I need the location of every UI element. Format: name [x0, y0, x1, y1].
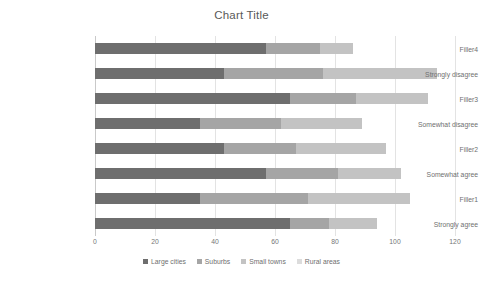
legend-item[interactable]: Large cities — [143, 258, 186, 265]
x-axis-tick-labels: 020406080100120 — [0, 238, 483, 252]
legend-swatch-icon — [197, 259, 202, 264]
bar-segment[interactable] — [296, 143, 386, 154]
plot-area — [95, 36, 455, 236]
bar-segment[interactable] — [95, 193, 200, 204]
bar-row[interactable] — [95, 111, 455, 136]
y-axis-label: Strongly agree — [434, 220, 478, 227]
gridline — [455, 36, 456, 236]
bar-row[interactable] — [95, 86, 455, 111]
bar-segment[interactable] — [308, 193, 410, 204]
bar-segment[interactable] — [95, 93, 290, 104]
bar-segment[interactable] — [323, 68, 437, 79]
legend-label: Small towns — [249, 258, 286, 265]
legend-label: Suburbs — [205, 258, 230, 265]
legend-swatch-icon — [297, 259, 302, 264]
bar-row[interactable] — [95, 36, 455, 61]
bar-segment[interactable] — [290, 93, 356, 104]
bar-segment[interactable] — [95, 168, 266, 179]
stacked-bar[interactable] — [95, 43, 455, 54]
chart-container: Chart Title 020406080100120 Large cities… — [0, 0, 483, 281]
bar-row[interactable] — [95, 211, 455, 236]
stacked-bar[interactable] — [95, 118, 455, 129]
y-axis-label: Strongly disagree — [425, 70, 478, 77]
bar-segment[interactable] — [290, 218, 329, 229]
legend-item[interactable]: Small towns — [241, 258, 286, 265]
legend-item[interactable]: Suburbs — [197, 258, 230, 265]
x-axis-tick-label: 60 — [271, 238, 279, 245]
bar-row[interactable] — [95, 136, 455, 161]
bar-segment[interactable] — [338, 168, 401, 179]
bar-segment[interactable] — [266, 168, 338, 179]
bar-segment[interactable] — [329, 218, 377, 229]
bar-segment[interactable] — [266, 43, 320, 54]
bar-segment[interactable] — [95, 68, 224, 79]
legend-swatch-icon — [143, 259, 148, 264]
x-axis-tick-label: 20 — [151, 238, 159, 245]
bar-segment[interactable] — [224, 68, 323, 79]
legend-swatch-icon — [241, 259, 246, 264]
stacked-bar[interactable] — [95, 193, 455, 204]
stacked-bar[interactable] — [95, 68, 455, 79]
x-axis-tick-label: 0 — [93, 238, 97, 245]
bar-row[interactable] — [95, 61, 455, 86]
legend-label: Large cities — [151, 258, 186, 265]
bar-segment[interactable] — [95, 118, 200, 129]
bar-segment[interactable] — [95, 143, 224, 154]
y-axis-label: Filler3 — [459, 95, 478, 102]
y-axis-label: Filler4 — [459, 45, 478, 52]
bar-segment[interactable] — [356, 93, 428, 104]
y-axis-label: Filler2 — [459, 145, 478, 152]
y-axis-label: Filler1 — [459, 195, 478, 202]
stacked-bar[interactable] — [95, 168, 455, 179]
x-axis-tick-label: 80 — [331, 238, 339, 245]
bar-segment[interactable] — [95, 218, 290, 229]
chart-legend: Large citiesSuburbsSmall townsRural area… — [0, 258, 483, 265]
stacked-bar[interactable] — [95, 218, 455, 229]
bar-segment[interactable] — [95, 43, 266, 54]
y-axis-category-labels — [0, 36, 92, 236]
bar-segment[interactable] — [200, 118, 281, 129]
y-axis-label: Somewhat agree — [427, 170, 478, 177]
bar-segment[interactable] — [200, 193, 308, 204]
x-axis-tick-label: 100 — [389, 238, 400, 245]
legend-label: Rural areas — [305, 258, 340, 265]
chart-title: Chart Title — [0, 9, 483, 21]
bar-row[interactable] — [95, 186, 455, 211]
legend-item[interactable]: Rural areas — [297, 258, 340, 265]
bar-segment[interactable] — [320, 43, 353, 54]
bar-row[interactable] — [95, 161, 455, 186]
bar-segment[interactable] — [224, 143, 296, 154]
bar-segment[interactable] — [281, 118, 362, 129]
x-axis-tick-label: 120 — [449, 238, 460, 245]
stacked-bar[interactable] — [95, 93, 455, 104]
x-axis-tick-label: 40 — [211, 238, 219, 245]
y-axis-label: Somewhat disagree — [418, 120, 478, 127]
stacked-bar[interactable] — [95, 143, 455, 154]
